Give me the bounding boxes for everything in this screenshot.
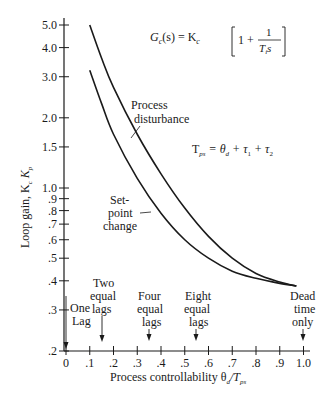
x-tick-label: 1.0 [296,356,311,370]
y-tick-label: 4.0 [42,41,57,55]
svg-text:Gc(s) = Kc: Gc(s) = Kc [150,30,200,46]
y-axis-label: Loop gain, Kc Kp [18,166,34,248]
svg-text:equal: equal [137,302,164,316]
svg-text:lags: lags [142,315,162,329]
svg-text:One: One [70,301,90,315]
svg-text:equal: equal [90,289,117,303]
four-equal-lags-annotation: Four equal lags [137,289,164,341]
y-tick-label: .2 [48,344,57,358]
svg-text:1: 1 [266,26,272,38]
y-tick-label: .4 [48,274,57,288]
svg-text:Lag: Lag [72,314,91,328]
svg-text:Two: Two [93,276,114,290]
svg-text:Set-: Set- [110,193,129,207]
tps-formula: Tps= θd+ τ1+ τ2 [192,142,273,158]
svg-text:only: only [292,315,313,329]
svg-text:disturbance: disturbance [134,112,189,126]
y-tick-label: .5 [48,251,57,265]
svg-text:Dead: Dead [290,289,315,303]
x-tick-label: .2 [109,356,118,370]
one-lag-annotation: One Lag [64,296,91,349]
chart: 5.04.03.02.01.51.0.9.8.7.6.5.4.3.2 0.1.2… [0,0,333,402]
x-tick-label: .8 [252,356,261,370]
y-tick-label: .6 [48,233,57,247]
x-tick-label: .7 [228,356,237,370]
svg-text:lags: lags [189,315,209,329]
controller-formula: Gc(s) = Kc 1 + 1 Tis [150,26,285,56]
svg-text:Tis: Tis [259,42,271,56]
y-tick-label: 3.0 [42,70,57,84]
process-disturbance-label: Process disturbance [131,98,189,138]
svg-text:lags: lags [92,302,112,316]
y-tick-label: 1.5 [42,140,57,154]
y-tick-label: .7 [48,217,57,231]
svg-text:Four: Four [138,289,161,303]
svg-text:time: time [294,302,315,316]
two-equal-lags-annotation: Two equal lags [90,276,117,342]
x-tick-label: .5 [180,356,189,370]
svg-text:Process: Process [131,98,168,112]
x-tick-label: .6 [204,356,213,370]
dead-time-only-annotation: Dead time only [290,289,315,341]
svg-text:equal: equal [184,302,211,316]
x-tick-label: .3 [133,356,142,370]
y-tick-label: .3 [48,303,57,317]
x-tick-label: .1 [85,356,94,370]
y-tick-label: 2.0 [42,111,57,125]
set-point-change-label: Set- point change [103,193,151,233]
svg-text:change: change [103,219,137,233]
svg-text:Eight: Eight [185,289,212,303]
svg-text:1 +: 1 + [238,33,254,47]
y-ticks: 5.04.03.02.01.51.0.9.8.7.6.5.4.3.2 [42,18,69,358]
svg-text:Tps= θd+ τ1+ τ2: Tps= θd+ τ1+ τ2 [192,142,273,158]
x-tick-label: .9 [275,356,284,370]
eight-equal-lags-annotation: Eight equal lags [184,289,212,341]
x-tick-label: 0 [63,356,69,370]
x-tick-label: .4 [157,356,166,370]
x-ticks: 0.1.2.3.4.5.6.7.8.91.0 [63,346,311,370]
y-tick-label: .8 [48,204,57,218]
svg-text:point: point [108,206,133,220]
y-tick-label: 5.0 [42,18,57,32]
x-axis-label: Process controllability θd/Tps [110,370,246,386]
